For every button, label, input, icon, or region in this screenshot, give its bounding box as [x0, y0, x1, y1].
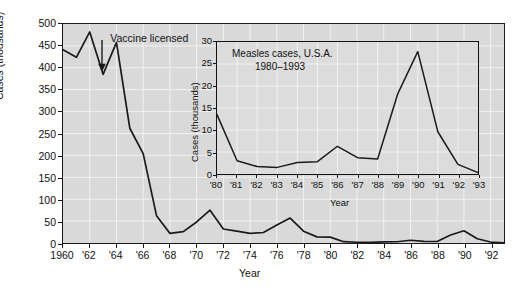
inset-x-tick-label: '86 — [327, 180, 347, 190]
inset-x-tick-mark — [256, 175, 257, 178]
main-x-tick-mark — [411, 244, 412, 248]
main-y-tick-mark — [58, 23, 62, 24]
inset-x-tick-mark — [317, 175, 318, 178]
inset-y-tick-mark — [213, 153, 216, 154]
inset-y-tick-label: 30 — [194, 36, 212, 46]
main-x-tick-mark — [143, 244, 144, 248]
inset-x-tick-label: '93 — [469, 180, 489, 190]
main-chart-y-axis-label: Cases (thousands) — [0, 12, 5, 100]
inset-x-tick-label: '89 — [388, 180, 408, 190]
inset-x-tick-mark — [358, 175, 359, 178]
main-y-tick-mark — [58, 200, 62, 201]
inset-x-tick-label: '83 — [267, 180, 287, 190]
main-y-tick-label: 0 — [26, 239, 56, 250]
main-y-tick-label: 400 — [26, 62, 56, 73]
main-y-tick-mark — [58, 156, 62, 157]
inset-x-tick-mark — [479, 175, 480, 178]
main-y-tick-mark — [58, 45, 62, 46]
main-x-tick-mark — [223, 244, 224, 248]
inset-x-tick-mark — [439, 175, 440, 178]
vaccine-licensed-annotation-label: Vaccine licensed — [110, 33, 188, 44]
inset-x-tick-label: '90 — [408, 180, 428, 190]
inset-chart-title: Measles cases, U.S.A. — [232, 48, 333, 61]
inset-x-tick-label: '82 — [246, 180, 266, 190]
inset-x-tick-mark — [297, 175, 298, 178]
main-x-tick-mark — [384, 244, 385, 248]
inset-x-tick-label: '85 — [307, 180, 327, 190]
main-y-tick-mark — [58, 134, 62, 135]
main-y-tick-label: 300 — [26, 106, 56, 117]
inset-x-tick-label: '91 — [429, 180, 449, 190]
main-x-tick-mark — [116, 244, 117, 248]
main-y-tick-label: 200 — [26, 151, 56, 162]
main-x-tick-label: '92 — [475, 250, 509, 261]
main-y-tick-label: 350 — [26, 84, 56, 95]
inset-x-tick-label: '84 — [287, 180, 307, 190]
chart-page: 050100150200250300350400450500 1960'62'6… — [0, 0, 514, 296]
main-x-tick-mark — [304, 244, 305, 248]
main-y-tick-label: 500 — [26, 18, 56, 29]
main-x-tick-mark — [492, 244, 493, 248]
inset-y-tick-mark — [213, 86, 216, 87]
inset-x-tick-mark — [378, 175, 379, 178]
inset-x-tick-mark — [459, 175, 460, 178]
inset-x-tick-label: '87 — [348, 180, 368, 190]
inset-y-tick-label: 25 — [194, 58, 212, 68]
inset-x-tick-label: '81 — [226, 180, 246, 190]
inset-x-tick-label: '92 — [449, 180, 469, 190]
main-x-tick-mark — [277, 244, 278, 248]
inset-y-tick-mark — [213, 108, 216, 109]
main-y-tick-label: 100 — [26, 195, 56, 206]
main-x-tick-mark — [250, 244, 251, 248]
main-chart-x-axis-label: Year — [239, 268, 260, 279]
main-x-tick-mark — [357, 244, 358, 248]
main-y-tick-mark — [58, 67, 62, 68]
inset-y-tick-mark — [213, 130, 216, 131]
main-x-tick-mark — [89, 244, 90, 248]
main-y-tick-mark — [58, 89, 62, 90]
vaccine-licensed-arrow-icon — [96, 40, 108, 72]
main-x-tick-mark — [438, 244, 439, 248]
main-y-tick-label: 150 — [26, 173, 56, 184]
inset-x-tick-mark — [277, 175, 278, 178]
main-y-tick-label: 250 — [26, 129, 56, 140]
inset-y-tick-mark — [213, 63, 216, 64]
main-y-tick-mark — [58, 222, 62, 223]
inset-x-tick-mark — [216, 175, 217, 178]
inset-x-tick-mark — [236, 175, 237, 178]
main-x-tick-mark — [62, 244, 63, 248]
main-x-tick-mark — [196, 244, 197, 248]
inset-chart-x-axis-label: Year — [330, 198, 349, 208]
main-y-tick-label: 450 — [26, 40, 56, 51]
main-y-tick-mark — [58, 111, 62, 112]
inset-x-tick-mark — [398, 175, 399, 178]
inset-chart-subtitle: 1980–1993 — [255, 61, 305, 74]
inset-y-tick-mark — [213, 41, 216, 42]
inset-chart-y-axis-label: Cases (thousands) — [190, 82, 200, 162]
main-x-tick-mark — [330, 244, 331, 248]
main-x-tick-mark — [169, 244, 170, 248]
inset-x-tick-label: '88 — [368, 180, 388, 190]
inset-x-tick-mark — [337, 175, 338, 178]
inset-x-tick-mark — [418, 175, 419, 178]
main-y-tick-label: 50 — [26, 217, 56, 228]
main-x-tick-mark — [465, 244, 466, 248]
main-y-tick-mark — [58, 178, 62, 179]
inset-x-tick-label: '80 — [206, 180, 226, 190]
